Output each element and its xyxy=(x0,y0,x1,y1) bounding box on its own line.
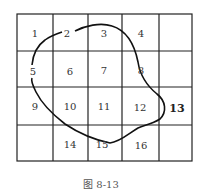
cell-label-2: 2 xyxy=(64,28,70,39)
cell-label-1: 1 xyxy=(32,28,38,39)
cell-label-11: 11 xyxy=(98,101,111,112)
grid-diagram: 1 2 3 4 5 6 7 8 9 10 11 12 13 14 15 16 xyxy=(0,0,202,191)
cell-label-12: 12 xyxy=(134,102,147,113)
cell-label-7: 7 xyxy=(101,65,107,76)
cell-label-14: 14 xyxy=(64,139,77,150)
cell-label-10: 10 xyxy=(64,101,77,112)
cell-label-16: 16 xyxy=(135,140,148,151)
figure-caption: 图 8-13 xyxy=(0,176,202,191)
cell-label-3: 3 xyxy=(101,28,107,39)
cell-label-4: 4 xyxy=(138,28,144,39)
cell-label-6: 6 xyxy=(67,66,73,77)
cell-label-13: 13 xyxy=(169,102,184,115)
cell-label-8: 8 xyxy=(138,65,144,76)
cell-label-9: 9 xyxy=(32,101,38,112)
cell-label-5: 5 xyxy=(30,66,36,77)
cell-label-15: 15 xyxy=(96,139,109,150)
